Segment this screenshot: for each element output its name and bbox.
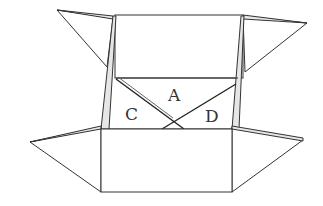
- bottom-right-flap: [232, 126, 303, 192]
- region-label-a: A: [167, 85, 181, 105]
- top-panel: [115, 15, 243, 78]
- region-label-c: C: [125, 104, 138, 124]
- bottom-left-flap: [30, 126, 101, 192]
- top-left-flap: [57, 10, 113, 67]
- box-net-diagram: A C D: [0, 0, 323, 206]
- bottom-panel: [101, 129, 232, 192]
- region-label-d: D: [205, 106, 219, 126]
- top-right-flap: [243, 15, 307, 72]
